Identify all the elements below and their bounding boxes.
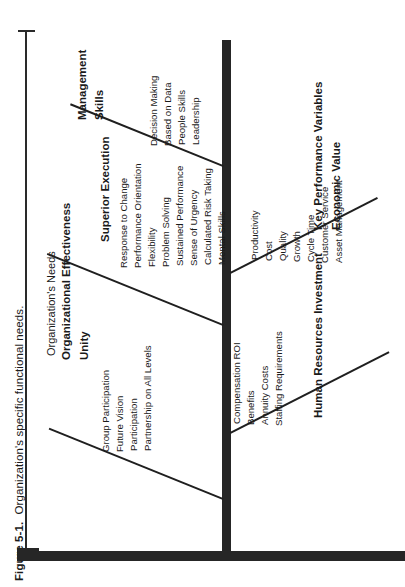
- branch-title-superior-execution: Superior Execution: [100, 137, 112, 242]
- branch-item-economic-value-5: Customer Service: [320, 186, 330, 262]
- branch-item-management-skills-1: Based on Data: [163, 82, 173, 145]
- branch-item-human-resources-investment-2: Annuity Costs: [260, 366, 270, 425]
- branch-title-unity: Unity: [79, 331, 91, 360]
- branch-item-economic-value-0: Productivity: [250, 210, 260, 260]
- figure-caption: Figure 5-1. Organization's specific func…: [14, 305, 26, 581]
- branch-item-economic-value-3: Growth: [292, 231, 302, 262]
- fishbone-arrow-bar: [17, 551, 405, 561]
- group-header-human-resources-investment: Human Resources Investment: [313, 253, 325, 418]
- branch-item-unity-0: Group Participation: [101, 370, 111, 452]
- figure-caption-text: Organization's specific functional needs…: [13, 305, 25, 514]
- branch-title-management-skills-line1: Management: [77, 50, 89, 120]
- group-header-organizational-effectiveness: Organizational Effectiveness: [61, 203, 73, 360]
- branch-title-management-skills-line2: Skills: [94, 90, 106, 120]
- fishbone-spine: [222, 40, 231, 552]
- branch-item-superior-execution-5: Sense of Urgency: [189, 189, 199, 265]
- organizations-needs-label: Organization's Needs: [46, 251, 57, 356]
- branch-item-unity-2: Participation: [129, 398, 139, 451]
- branch-item-superior-execution-0: Response to Change: [119, 178, 129, 268]
- branch-item-unity-1: Future Vision: [115, 395, 125, 451]
- branch-item-management-skills-3: Leadership: [191, 97, 201, 144]
- branch-item-human-resources-investment-1: Benefits: [246, 390, 256, 425]
- branch-item-superior-execution-4: Sustained Performance: [175, 166, 185, 266]
- branch-item-unity-3: Partnership on All Levels: [143, 345, 153, 451]
- branch-item-management-skills-0: Decision Making: [149, 76, 159, 146]
- branch-item-superior-execution-6: Calculated Risk Taking: [203, 168, 213, 265]
- bracket-stem: [25, 31, 27, 553]
- branch-item-superior-execution-1: Performance Orientation: [133, 163, 143, 268]
- branch-item-superior-execution-3: Problem Solving: [161, 197, 171, 267]
- bracket-top-tick: [18, 30, 35, 32]
- branch-item-human-resources-investment-0: Compensation ROI: [232, 342, 242, 424]
- branch-item-superior-execution-2: Flexibility: [147, 228, 157, 267]
- branch-item-economic-value-6: Asset Management: [334, 180, 344, 263]
- branch-item-economic-value-4: Cycle Time: [306, 215, 316, 262]
- branch-item-economic-value-1: Cost: [264, 241, 274, 261]
- branch-item-superior-execution-7: Mental Skills: [217, 211, 227, 265]
- branch-item-economic-value-2: Quality: [278, 231, 288, 261]
- branch-item-management-skills-2: People Skills: [177, 90, 187, 145]
- branch-item-human-resources-investment-3: Staffing Requirements: [274, 331, 284, 426]
